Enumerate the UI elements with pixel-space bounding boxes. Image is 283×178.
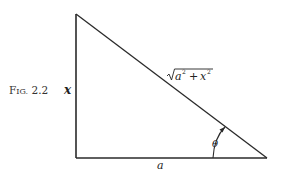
plus-sign: +: [189, 70, 198, 83]
hypotenuse-label: a 2 + x 2: [167, 68, 213, 83]
angle-arrowhead-icon: [220, 127, 226, 133]
base-side-label: a: [157, 159, 164, 172]
angle-label: θ: [212, 138, 218, 149]
exponent-a: 2: [182, 68, 186, 75]
exponent-x: 2: [207, 68, 211, 75]
vertical-side-label: x: [63, 83, 72, 97]
hypotenuse: [76, 14, 267, 158]
triangle-diagram: FIG. 2.2 x a θ a 2 + x 2: [0, 0, 283, 178]
figure-caption: FIG. 2.2: [9, 84, 48, 96]
radicand-a: a: [175, 70, 182, 83]
radicand-x: x: [200, 70, 207, 83]
